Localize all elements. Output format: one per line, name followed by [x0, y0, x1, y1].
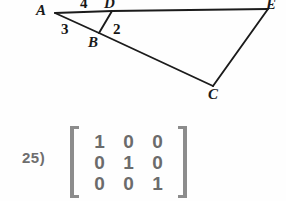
matrix-row: 1 0 0: [85, 131, 172, 152]
matrix-cell: 0: [114, 173, 143, 194]
matrix-row: 0 1 0: [85, 152, 172, 173]
matrix-cell: 1: [85, 131, 114, 152]
vertex-label-d: D: [104, 0, 115, 11]
worksheet-page: A D E B C 4 3 2 25) 1 0 0 0 1 0: [0, 0, 286, 201]
vertex-label-e: E: [266, 0, 276, 12]
matrix-cell: 0: [114, 131, 143, 152]
segment-length-ad: 4: [80, 0, 88, 11]
problem-number: 25): [22, 149, 45, 166]
vertex-label-c: C: [208, 87, 218, 102]
segment-length-ab: 3: [61, 22, 69, 37]
matrix-cell: 0: [143, 131, 172, 152]
matrix-cell: 0: [143, 152, 172, 173]
vertex-label-b: B: [88, 35, 98, 50]
matrix-grid: 1 0 0 0 1 0 0 0 1: [79, 126, 178, 198]
segment-CE: [213, 9, 268, 86]
matrix-cell: 0: [85, 173, 114, 194]
vertex-label-a: A: [36, 3, 46, 18]
segment-AC: [55, 13, 213, 86]
segment-length-bd: 2: [113, 22, 121, 37]
matrix-bracket-right: [178, 126, 187, 198]
problem-25: 25) 1 0 0 0 1 0 0 0 1: [0, 124, 286, 201]
matrix-bracket-left: [70, 126, 79, 198]
matrix-row: 0 0 1: [85, 173, 172, 194]
matrix-cell: 0: [85, 152, 114, 173]
geometry-figure: A D E B C 4 3 2: [0, 0, 286, 115]
matrix-cell: 1: [143, 173, 172, 194]
segment-BD: [99, 11, 112, 33]
matrix-cell: 1: [114, 152, 143, 173]
matrix-identity-3x3: 1 0 0 0 1 0 0 0 1: [70, 126, 187, 198]
